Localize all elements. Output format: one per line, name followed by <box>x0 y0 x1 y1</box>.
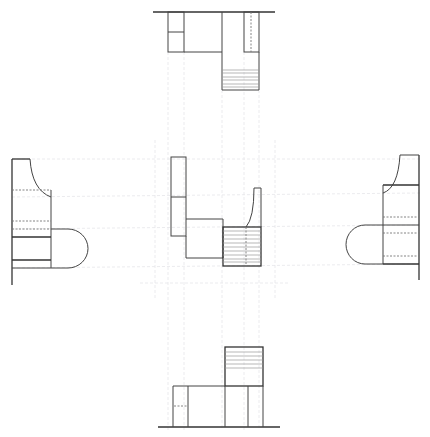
top-view <box>153 12 275 90</box>
construction-lines <box>12 52 420 430</box>
left-view <box>12 159 88 285</box>
drawing-canvas <box>0 0 430 437</box>
bottom-view <box>158 347 280 427</box>
front-view <box>171 157 261 266</box>
right-view <box>346 155 419 280</box>
